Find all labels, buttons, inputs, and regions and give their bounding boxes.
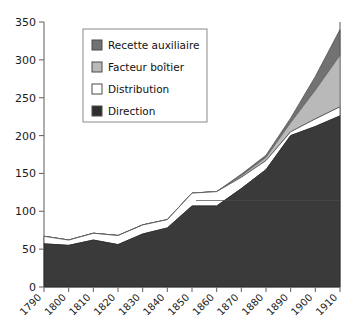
legend-swatch-direction — [92, 106, 102, 116]
legend-swatch-distribution — [92, 84, 102, 94]
chart-svg: 050100150200250300350 179018001810182018… — [0, 0, 357, 331]
y-tick-label: 350 — [15, 16, 36, 29]
legend-label: Facteur boîtier — [108, 61, 185, 73]
y-tick-label: 250 — [15, 92, 36, 105]
chart-legend: Recette auxiliaireFacteur boîtierDistrib… — [83, 29, 207, 122]
legend-label: Direction — [108, 105, 155, 117]
y-tick-label: 200 — [15, 130, 36, 143]
y-tick-label: 150 — [15, 167, 36, 180]
legend-swatch-facteur — [92, 62, 102, 72]
y-tick-label: 300 — [15, 54, 36, 67]
legend-label: Distribution — [108, 83, 169, 95]
legend-label: Recette auxiliaire — [108, 39, 200, 51]
y-tick-label: 100 — [15, 205, 36, 218]
legend-swatch-recette — [92, 40, 102, 50]
stacked-area-chart: 050100150200250300350 179018001810182018… — [0, 0, 357, 331]
y-tick-label: 50 — [22, 243, 36, 256]
